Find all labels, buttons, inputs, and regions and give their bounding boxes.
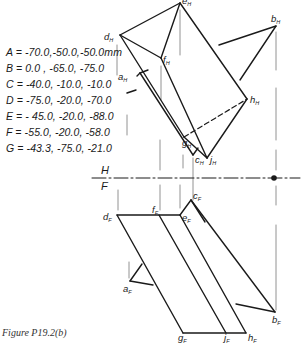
front-view-edges [117,200,275,333]
label-fF: fF [152,204,159,216]
label-aF: aF [123,283,132,295]
fold-label-h: H [101,164,109,176]
coord-a: A = -70.0,-50.0,-50.0mm [6,44,122,60]
label-cH: cH [195,154,204,166]
figure-caption: Figure P19.2(b) [2,327,67,338]
label-hH: hH [250,94,259,106]
top-view-edges [120,3,276,158]
coord-e: E = - 45.0, -20.0, -88.0 [6,108,122,124]
coord-d: D = -75.0, -20.0, -70.0 [6,92,122,108]
fold-line-marker [271,175,277,181]
hidden-edge-gh [184,99,247,137]
label-eH: eH [182,0,191,7]
top-view-labels: eH dH fH bH aH hH gH cH jH [104,0,280,166]
label-hF: hF [248,332,257,343]
point-coordinates-list: A = -70.0,-50.0,-50.0mm B = 0.0 , -65.0,… [6,44,122,156]
front-view-labels: cF dF fF eF aF bF gF jF hF [103,190,281,343]
label-bF: bF [272,314,281,326]
label-jH: jH [208,154,216,166]
fold-label-f: F [101,180,109,192]
label-gH: gH [182,137,191,149]
label-dH: dH [104,31,113,43]
label-eF: eF [182,212,191,224]
coord-g: G = -43.3, -75.0, -21.0 [6,140,122,156]
label-fH: fH [163,54,170,66]
coord-c: C = -40.0, -10.0, -10.0 [6,76,122,92]
coord-b: B = 0.0 , -65.0, -75.0 [6,60,122,76]
coord-f: F = -55.0, -20.0, -58.0 [6,124,122,140]
label-cF: cF [193,190,202,202]
label-dF: dF [103,211,112,223]
label-bH: bH [271,13,280,25]
